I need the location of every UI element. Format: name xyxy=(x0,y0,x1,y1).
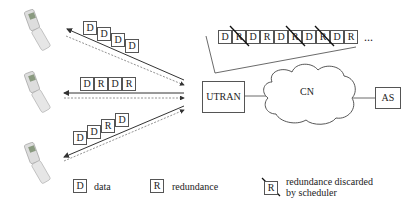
strike-icon xyxy=(286,26,305,46)
legend-redundancy-label: redundance xyxy=(172,181,218,192)
strike-icon xyxy=(230,26,249,46)
network-diagram: D D D D D R D R D D R D D R D R D R D R … xyxy=(0,0,420,207)
cn-label: CN xyxy=(300,86,314,97)
strike-icon xyxy=(315,26,334,46)
utran-node: UTRAN xyxy=(202,81,245,113)
as-node: AS xyxy=(375,87,401,109)
legend-discarded-label-2: by scheduler xyxy=(286,187,337,198)
legend-discarded-label-1: redundance discarded xyxy=(286,176,373,187)
legend-data-label: data xyxy=(94,181,111,192)
legend-redundancy-symbol: R xyxy=(150,179,164,193)
legend-discarded-symbol: R xyxy=(264,181,278,195)
legend-data-symbol: D xyxy=(73,179,87,193)
